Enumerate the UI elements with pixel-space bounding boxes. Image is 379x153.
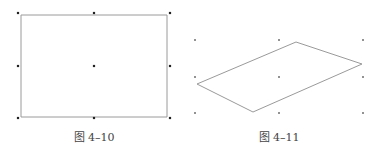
selection-handle-icon [17,12,19,14]
selection-handle-icon [93,65,95,67]
selection-handle-icon [194,112,195,113]
selection-handle-icon [169,65,171,67]
selection-handle-icon [194,76,195,77]
selection-handle-icon [362,112,363,113]
selection-handle-icon [17,65,19,67]
selection-handle-icon [17,117,19,119]
selection-handle-icon [278,39,279,40]
selection-handle-icon [278,76,279,77]
selection-handle-icon [169,117,171,119]
selection-handle-icon [194,39,195,40]
selection-handle-icon [93,12,95,14]
selection-handle-icon [362,76,363,77]
selection-handle-icon [93,117,95,119]
figure-4-11-parallelogram [194,39,363,113]
selection-handle-icon [362,39,363,40]
figure-4-10-rectangle [17,12,171,119]
caption-figure-4-11: 图 4–11 [259,128,300,144]
selection-handle-icon [169,12,171,14]
diagram-canvas [0,0,379,153]
caption-figure-4-10: 图 4–10 [74,128,115,144]
selection-handle-icon [278,112,279,113]
